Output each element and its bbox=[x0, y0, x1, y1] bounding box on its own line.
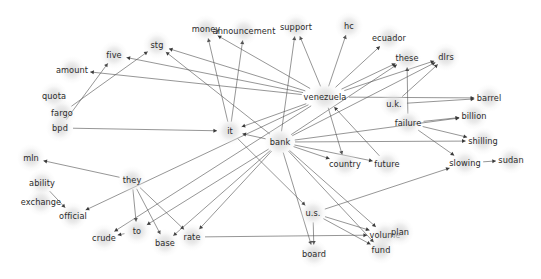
node-label-uk[interactable]: u.k. bbox=[386, 100, 402, 109]
node-label-venezuela[interactable]: venezuela bbox=[304, 93, 347, 102]
graph-edge-arrowhead bbox=[169, 48, 173, 52]
graph-edge bbox=[199, 151, 271, 229]
node-label-announcement[interactable]: announcement bbox=[213, 27, 276, 36]
node-label-support[interactable]: support bbox=[280, 23, 312, 32]
node-label-amount[interactable]: amount bbox=[56, 66, 88, 75]
graph-edge bbox=[423, 127, 468, 138]
node-label-hc[interactable]: hc bbox=[344, 22, 354, 31]
node-label-rate[interactable]: rate bbox=[183, 233, 200, 242]
graph-edge bbox=[208, 38, 228, 121]
graph-edge-arrowhead bbox=[492, 159, 496, 163]
graph-edge bbox=[295, 118, 459, 140]
graph-edge-arrowhead bbox=[134, 218, 138, 222]
graph-edge bbox=[282, 36, 295, 131]
graph-edge bbox=[407, 67, 408, 113]
graph-edge bbox=[407, 99, 474, 103]
node-label-bpd[interactable]: bpd bbox=[52, 124, 68, 133]
graph-edge-arrowhead bbox=[292, 36, 296, 40]
graph-edge bbox=[114, 106, 311, 232]
node-label-ability[interactable]: ability bbox=[29, 179, 55, 188]
graph-edge bbox=[133, 189, 136, 221]
graph-edge bbox=[73, 128, 217, 131]
graph-edge bbox=[140, 187, 184, 229]
graph-edge bbox=[325, 168, 450, 209]
node-label-they[interactable]: they bbox=[123, 176, 142, 185]
graph-edge-arrowhead bbox=[127, 56, 131, 60]
graph-edge-arrowhead bbox=[147, 221, 151, 225]
graph-edge bbox=[418, 130, 454, 155]
graph-edge-arrowhead bbox=[369, 158, 373, 162]
graph-edge-arrowhead bbox=[463, 134, 467, 138]
node-label-stg[interactable]: stg bbox=[151, 41, 164, 50]
graph-edge-arrowhead bbox=[240, 40, 244, 44]
graph-edge bbox=[166, 52, 270, 134]
graph-edge-arrowhead bbox=[462, 139, 466, 143]
node-label-future[interactable]: future bbox=[374, 160, 399, 169]
graph-edge bbox=[231, 40, 242, 121]
graph-edge-arrowhead bbox=[118, 232, 122, 236]
node-label-barrel[interactable]: barrel bbox=[477, 94, 502, 103]
graph-edge bbox=[329, 35, 346, 86]
graph-edge-arrowhead bbox=[114, 228, 118, 232]
node-label-these[interactable]: these bbox=[395, 54, 418, 63]
node-label-quota[interactable]: quota bbox=[42, 92, 66, 101]
network-graph: moneyannouncementsupporthcecuadordlrsthe… bbox=[0, 0, 541, 279]
graph-edge-arrowhead bbox=[312, 241, 316, 245]
graph-edge bbox=[71, 52, 147, 107]
node-label-fund[interactable]: fund bbox=[372, 246, 391, 255]
graph-edge bbox=[300, 36, 321, 86]
node-label-shilling[interactable]: shilling bbox=[468, 137, 498, 146]
graph-edge-arrowhead bbox=[104, 63, 108, 67]
node-label-it[interactable]: it bbox=[227, 127, 233, 136]
graph-edge-arrowhead bbox=[207, 38, 211, 42]
node-label-ecuador[interactable]: ecuador bbox=[372, 34, 406, 43]
node-label-mln[interactable]: mln bbox=[23, 154, 39, 163]
graph-edge-arrowhead bbox=[43, 160, 47, 164]
graph-edge bbox=[86, 105, 309, 210]
node-label-official[interactable]: official bbox=[59, 212, 87, 221]
node-label-board[interactable]: board bbox=[302, 250, 326, 259]
node-label-exchange[interactable]: exchange bbox=[21, 198, 62, 207]
graph-edge bbox=[218, 36, 310, 89]
graph-edge-arrowhead bbox=[90, 70, 94, 74]
graph-edge-arrowhead bbox=[363, 233, 367, 237]
graph-edge bbox=[283, 153, 311, 245]
graph-edge bbox=[147, 149, 269, 225]
node-label-country[interactable]: country bbox=[329, 160, 361, 169]
graph-edge-arrowhead bbox=[166, 52, 170, 56]
graph-edge bbox=[424, 118, 460, 122]
node-label-plan[interactable]: plan bbox=[391, 228, 409, 237]
node-label-slowing[interactable]: slowing bbox=[449, 159, 481, 168]
graph-edge bbox=[90, 72, 302, 95]
node-label-failure[interactable]: failure bbox=[395, 119, 422, 128]
node-label-sudan[interactable]: sudan bbox=[498, 156, 523, 165]
graph-edge bbox=[295, 141, 466, 142]
graph-edge-arrowhead bbox=[393, 65, 397, 69]
graph-edge bbox=[205, 235, 367, 237]
graph-edge-arrowhead bbox=[308, 241, 312, 245]
node-label-dlrs[interactable]: dlrs bbox=[438, 53, 454, 62]
graph-edge-arrowhead bbox=[450, 152, 454, 156]
node-label-fargo[interactable]: fargo bbox=[51, 109, 73, 118]
graph-edge bbox=[238, 139, 306, 206]
node-label-to[interactable]: to bbox=[133, 227, 141, 236]
graph-edge-arrowhead bbox=[213, 129, 217, 133]
graph-edge bbox=[334, 107, 379, 156]
node-label-bank[interactable]: bank bbox=[270, 138, 291, 147]
node-label-billion[interactable]: billion bbox=[461, 112, 486, 121]
node-label-us[interactable]: u.s. bbox=[305, 209, 320, 218]
node-label-crude[interactable]: crude bbox=[92, 234, 116, 243]
graph-edge-arrowhead bbox=[144, 52, 148, 56]
node-label-base[interactable]: base bbox=[155, 239, 175, 248]
graph-edge bbox=[43, 161, 119, 178]
graph-edge bbox=[328, 108, 342, 155]
node-label-five[interactable]: five bbox=[106, 51, 121, 60]
